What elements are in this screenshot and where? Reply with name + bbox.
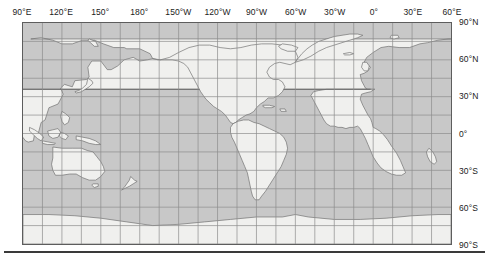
landmass-new-zealand: [122, 176, 138, 190]
latitude-label: 60°N: [459, 54, 478, 64]
landmass-java: [42, 141, 55, 145]
bottom-divider: [4, 251, 485, 253]
longitude-label: 30°E: [403, 7, 422, 17]
longitude-label: 60°E: [443, 7, 462, 17]
longitude-label: 150°: [91, 7, 109, 17]
latitude-label: 0°: [459, 129, 467, 139]
landmass-hispaniola: [280, 109, 286, 111]
graticule-layer: [23, 23, 451, 244]
world-map-graphic: [23, 23, 451, 244]
latitude-label: 90°S: [459, 240, 478, 250]
longitude-label: 150°W: [165, 7, 191, 17]
landmass-tasmania: [92, 184, 98, 188]
landmass-cuba: [263, 105, 275, 107]
longitude-label: 60°W: [285, 7, 306, 17]
longitude-label: 120°W: [204, 7, 230, 17]
longitude-label: 120°E: [49, 7, 73, 17]
latitude-label: 90°N: [459, 17, 478, 27]
landmass-svalbard: [390, 35, 399, 39]
longitude-label: 0°: [370, 7, 378, 17]
longitude-label: 90°W: [246, 7, 267, 17]
map-plot-area[interactable]: [22, 22, 452, 245]
longitude-label: 180°: [130, 7, 148, 17]
landmass-south-america: [231, 120, 288, 200]
longitude-label: 90°E: [13, 7, 32, 17]
longitude-label: 30°W: [324, 7, 345, 17]
landmass-new-guinea: [76, 136, 101, 145]
latitude-label: 30°S: [459, 166, 478, 176]
latitude-label: 30°N: [459, 91, 478, 101]
world-map-page: 90°E120°E150°180°150°W120°W90°W60°W30°W0…: [0, 0, 489, 257]
latitude-label: 60°S: [459, 203, 478, 213]
